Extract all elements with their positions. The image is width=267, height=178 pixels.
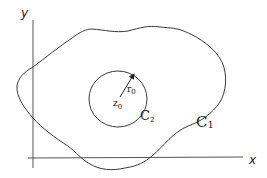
contour-diagram: y x r0 z0 C2 C1 xyxy=(0,0,267,178)
radius-label: r0 xyxy=(127,84,136,96)
outer-curve-label-sub: 1 xyxy=(207,119,213,130)
y-axis-label: y xyxy=(20,6,29,20)
inner-circle-c2 xyxy=(89,71,147,127)
x-axis xyxy=(28,157,243,158)
center-label: z0 xyxy=(113,98,122,111)
inner-circle-label-main: C xyxy=(140,108,150,123)
inner-circle-label: C2 xyxy=(140,108,154,124)
x-axis-label: x xyxy=(248,153,257,167)
outer-curve-label: C1 xyxy=(196,113,214,131)
radius-label-sub: 0 xyxy=(131,88,135,96)
center-label-sub: 0 xyxy=(118,103,122,111)
inner-circle-label-sub: 2 xyxy=(150,116,154,124)
outer-curve-label-main: C xyxy=(196,113,207,131)
outer-curve-c1 xyxy=(17,26,226,169)
